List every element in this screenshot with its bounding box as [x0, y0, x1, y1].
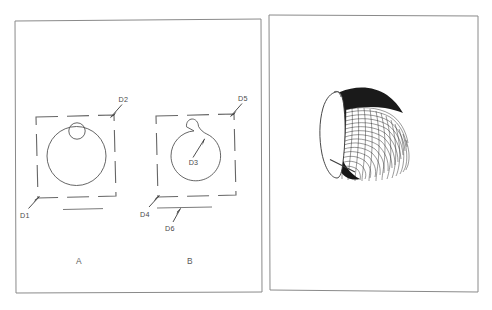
caption-b: B — [187, 256, 193, 266]
callout-d6: D6 — [165, 208, 181, 233]
left-panel-frame — [15, 19, 262, 293]
caption-a: A — [76, 256, 82, 266]
callout-d5-leader — [231, 104, 243, 117]
diagram-a-baseline — [63, 209, 103, 210]
diagram-b: D5 D4 D6 D3 B — [140, 94, 248, 267]
callout-d6-label: D6 — [165, 224, 175, 233]
callout-d4-leader — [149, 196, 160, 208]
diagram-a-small-circle — [69, 123, 85, 139]
meshed-elbow-surface — [320, 87, 409, 181]
callout-d6-leader — [173, 209, 181, 223]
left-panel — [15, 19, 262, 293]
diagram-a: D2 D1 A — [20, 95, 128, 267]
diagram-a-main-circle — [47, 127, 106, 186]
callout-d2-leader — [111, 105, 123, 118]
callout-d2: D2 — [110, 95, 128, 119]
figure-root: D2 D1 A D5 — [0, 0, 492, 310]
callout-d4-label: D4 — [140, 210, 150, 219]
callout-d1-label: D1 — [20, 211, 30, 220]
figure-canvas: D2 D1 A D5 — [0, 0, 492, 310]
callout-d3-label: D3 — [189, 158, 199, 167]
diagram-b-shape-outline — [171, 119, 221, 181]
diagram-b-baseline — [157, 207, 212, 208]
callout-d1-leader — [29, 197, 40, 209]
callout-d5: D5 — [230, 94, 248, 118]
callout-d4: D4 — [140, 195, 160, 219]
diagram-b-dashed-boundary — [156, 114, 236, 197]
callout-d2-label: D2 — [119, 95, 129, 104]
callout-d3-leader — [193, 139, 205, 158]
callout-d3: D3 — [189, 138, 205, 167]
callout-d5-label: D5 — [238, 94, 248, 103]
callout-d1: D1 — [20, 196, 40, 220]
